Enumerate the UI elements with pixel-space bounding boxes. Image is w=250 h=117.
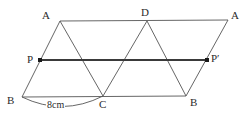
vertex-label-b-bottom-left: B (7, 95, 14, 106)
diagonal-a-to-c (60, 21, 103, 96)
measure-label-bc: 8cm (46, 100, 65, 110)
vertex-label-a-top-left: A (42, 10, 50, 21)
diagonal-d-to-b (147, 21, 186, 96)
segment-layer (22, 20, 228, 97)
top-edge (60, 20, 228, 21)
vertex-label-a-top-right: A (231, 10, 239, 21)
vertex-label-p-prime-right: P′ (211, 53, 220, 64)
vertex-label-c-bottom-middle: C (99, 99, 106, 110)
bottom-edge (22, 96, 186, 97)
vertex-label-p-left: P (27, 54, 33, 65)
point-marker-p (38, 58, 42, 62)
geometry-figure: A D A P P′ B C B 8cm (0, 0, 250, 117)
vertex-label-b-bottom-right: B (190, 97, 197, 108)
point-marker-p-prime (205, 58, 209, 62)
diagonal-c-to-d (103, 21, 147, 96)
vertex-label-d-top-middle: D (141, 7, 149, 18)
